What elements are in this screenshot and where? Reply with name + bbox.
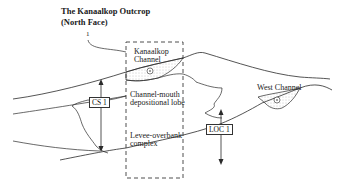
kanaalkop-channel-label-2: Channel [134, 55, 161, 64]
leader-line [88, 40, 126, 52]
levee-label-2: complex [130, 139, 158, 148]
loc1-arrow-down-icon [219, 159, 224, 165]
diagram-title-line1: The Kanaalkop Outcrop [61, 6, 150, 17]
diagram-title-line2: (North Face) [61, 17, 108, 28]
west-channel-label: West Channel [257, 83, 301, 92]
lobe-label-2: depositional lobe [130, 98, 185, 107]
lower-left-line [13, 141, 100, 151]
cs1-section-box: CS 1 [89, 97, 110, 108]
loc1-section-box: LOC 1 [206, 124, 233, 135]
marker-label: 1 [86, 30, 90, 39]
loc1-arrow-up-icon [219, 109, 224, 115]
